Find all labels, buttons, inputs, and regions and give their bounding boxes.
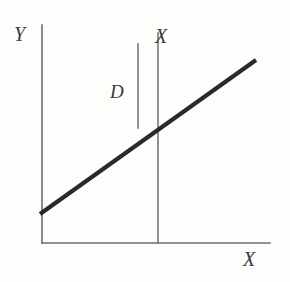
distance-d-label: D (110, 82, 124, 101)
x-axis-label: X (243, 249, 255, 269)
regression-line (40, 60, 256, 214)
regression-line-figure: Y X D X (0, 0, 290, 282)
figure-canvas (0, 0, 290, 282)
y-axis-label: Y (14, 24, 25, 44)
point-x-label: X (155, 26, 167, 46)
